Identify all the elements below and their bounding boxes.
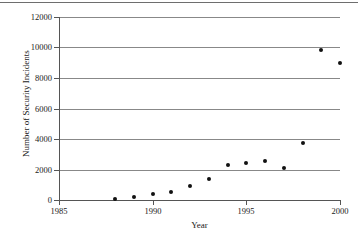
y-tick-label: 2000	[4, 166, 52, 175]
data-point	[132, 195, 136, 199]
y-tick-label-wrap: 10000	[0, 43, 52, 52]
x-tick	[59, 200, 60, 205]
x-tick	[246, 200, 247, 205]
data-point	[263, 159, 267, 163]
data-point	[282, 166, 286, 170]
y-tick-label: 4000	[4, 135, 52, 144]
y-tick-label: 8000	[4, 74, 52, 83]
data-point	[169, 190, 173, 194]
y-tick-label: 10000	[4, 43, 52, 52]
data-point	[338, 61, 342, 65]
data-point	[188, 184, 192, 188]
x-tick	[340, 200, 341, 205]
x-tick	[153, 200, 154, 205]
plot-area	[59, 17, 340, 200]
page-top-rule	[0, 2, 358, 3]
x-tick-label: 1990	[133, 206, 173, 216]
data-point	[244, 161, 248, 165]
x-tick-label: 2000	[320, 206, 358, 216]
data-point	[226, 163, 230, 167]
y-tick-label-wrap: 12000	[0, 13, 52, 22]
chart-figure: Number of Security Incidents 02000400060…	[0, 0, 358, 238]
data-point	[151, 192, 155, 196]
x-tick-label: 1985	[39, 206, 79, 216]
x-axis-line	[59, 200, 340, 201]
x-tick-label: 1995	[226, 206, 266, 216]
y-tick-label-wrap: 6000	[0, 105, 52, 114]
x-axis-label: Year	[59, 220, 340, 231]
data-point	[319, 48, 323, 52]
y-tick-label: 12000	[4, 13, 52, 22]
y-tick-label-wrap: 4000	[0, 135, 52, 144]
data-point	[207, 177, 211, 181]
y-tick-label: 6000	[4, 105, 52, 114]
y-tick-label-wrap: 2000	[0, 166, 52, 175]
y-tick-label: 0	[4, 196, 52, 205]
y-tick-label-wrap: 8000	[0, 74, 52, 83]
data-point	[301, 141, 305, 145]
y-tick-label-wrap: 0	[0, 196, 52, 205]
